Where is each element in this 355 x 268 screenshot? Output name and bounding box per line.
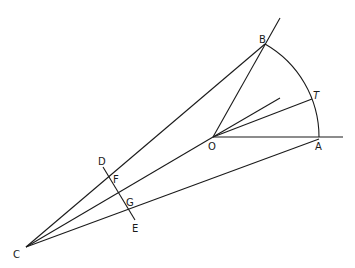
- line-co: [26, 137, 213, 247]
- label-b: B: [259, 34, 266, 45]
- label-g: G: [126, 197, 134, 208]
- line-ot: [213, 99, 312, 137]
- label-o: O: [208, 141, 216, 152]
- label-a: A: [315, 141, 322, 152]
- line-cb: [26, 44, 265, 247]
- ray-o: [213, 98, 280, 137]
- geometry-diagram: B T O A D F G E C: [0, 0, 355, 268]
- line-ca: [26, 139, 319, 247]
- label-e: E: [132, 223, 138, 234]
- label-f: F: [113, 174, 119, 185]
- arc-ab: [265, 44, 319, 137]
- label-t: T: [313, 90, 320, 101]
- label-c: C: [13, 249, 20, 260]
- line-ob: [213, 18, 280, 137]
- line-de: [103, 167, 135, 220]
- label-d: D: [98, 156, 106, 167]
